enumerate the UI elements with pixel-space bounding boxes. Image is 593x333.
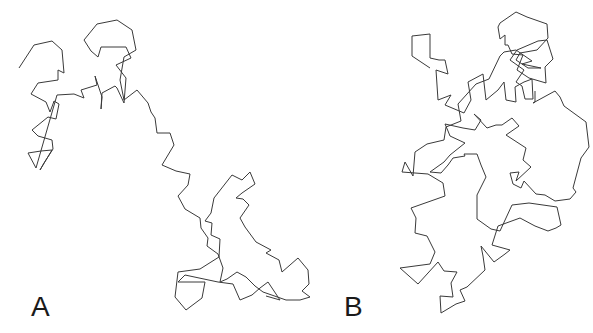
- panel-label-a: A: [31, 293, 50, 321]
- backbone-trace-b: [400, 12, 589, 313]
- figure-canvas: [0, 0, 593, 333]
- panel-label-b: B: [344, 293, 363, 321]
- backbone-trace-a: [19, 20, 310, 310]
